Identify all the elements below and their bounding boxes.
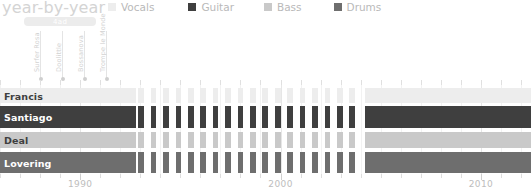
axis-tick (200, 174, 201, 178)
timeline-striped-segment (138, 106, 362, 128)
axis-tick (461, 174, 462, 178)
legend-item-vocals[interactable]: Vocals (108, 1, 154, 13)
stripe-bar (200, 106, 206, 128)
top-tick (20, 80, 21, 85)
top-tick (180, 80, 181, 85)
stripe-bar (213, 88, 219, 103)
stripe-bar (250, 152, 256, 173)
row-label-santiago: Santiago (4, 112, 52, 123)
stripe-bar (325, 132, 331, 148)
top-tick (461, 80, 462, 85)
legend-label: Drums (347, 1, 382, 13)
axis-tick (301, 174, 302, 178)
axis-tick (40, 174, 41, 178)
plot-area: FrancisSantiagoDealLovering (0, 84, 531, 174)
axis-tick (521, 174, 522, 178)
axis-tick (361, 174, 362, 178)
stripe-bar (275, 106, 281, 128)
stripe-bar (300, 152, 306, 173)
annotation-marker[interactable]: Trompe le Monde (106, 31, 107, 80)
top-tick (240, 80, 241, 85)
legend-label: Guitar (201, 1, 234, 13)
top-tick (521, 80, 522, 85)
stripe-bar (312, 88, 318, 103)
axis-tick (260, 174, 261, 178)
annotation-marker[interactable]: Doolittle (62, 31, 63, 80)
stripe-bar (325, 88, 331, 103)
stripe-bar (300, 132, 306, 148)
stripe-bar (287, 132, 293, 148)
stripe-bar (151, 152, 157, 173)
top-tick (501, 80, 502, 85)
stripe-bar (337, 152, 343, 173)
stripe-bar (213, 152, 219, 173)
legend-label: Vocals (121, 1, 154, 13)
top-tick (100, 80, 101, 85)
stripe-bar (151, 88, 157, 103)
stripe-bar (138, 132, 144, 148)
stripe-bar (349, 106, 355, 128)
axis-tick (180, 174, 181, 178)
stripe-bar (300, 88, 306, 103)
stripe-bar (176, 152, 182, 173)
top-tick (60, 80, 61, 85)
chart-legend: VocalsGuitarBassDrums (108, 0, 381, 13)
stripe-bar (312, 106, 318, 128)
annotation-label: Surfer Rosa (33, 32, 41, 72)
axis-label: 1990 (68, 179, 93, 189)
stripe-bar (262, 106, 268, 128)
axis-label: 2000 (268, 179, 293, 189)
top-tick (0, 80, 1, 85)
stripe-bar (337, 132, 343, 148)
row-label-deal: Deal (4, 135, 28, 146)
axis-tick (0, 174, 1, 178)
stripe-bar (163, 152, 169, 173)
stripe-bar (349, 152, 355, 173)
stripe-bar (188, 106, 194, 128)
legend-item-bass[interactable]: Bass (264, 1, 302, 13)
stripe-bar (287, 88, 293, 103)
year-by-year-chart: year-by-year VocalsGuitarBassDrums 4adSu… (0, 0, 531, 190)
timeline-row-lovering[interactable]: Lovering (0, 152, 531, 173)
stripe-bar (225, 152, 231, 173)
axis-tick (421, 174, 422, 178)
page-title: year-by-year (2, 0, 105, 17)
top-tick (220, 80, 221, 85)
top-tick (281, 80, 282, 85)
top-tick (120, 80, 121, 85)
timeline-row-francis[interactable]: Francis (0, 88, 531, 103)
legend-swatch (334, 3, 342, 11)
timeline-segment (365, 88, 531, 103)
stripe-bar (138, 152, 144, 173)
axis-tick (381, 174, 382, 178)
stripe-bar (250, 106, 256, 128)
legend-item-drums[interactable]: Drums (334, 1, 382, 13)
timeline-striped-segment (138, 152, 362, 173)
timeline-segment (365, 152, 531, 173)
legend-swatch (264, 3, 272, 11)
stripe-bar (238, 88, 244, 103)
annotation-label: Bossanova (77, 35, 85, 72)
annotation-marker[interactable]: Bossanova (84, 31, 85, 80)
axis-tick (341, 174, 342, 178)
timeline-row-deal[interactable]: Deal (0, 132, 531, 148)
stripe-bar (188, 132, 194, 148)
stripe-bar (213, 106, 219, 128)
top-tick (481, 80, 482, 85)
stripe-bar (312, 132, 318, 148)
stripe-bar (138, 106, 144, 128)
stripe-bar (225, 88, 231, 103)
row-label-lovering: Lovering (4, 157, 52, 168)
timeline-row-santiago[interactable]: Santiago (0, 106, 531, 128)
stripe-bar (287, 152, 293, 173)
stripe-bar (325, 106, 331, 128)
top-tick (200, 80, 201, 85)
stripe-bar (312, 152, 318, 173)
top-tick (321, 80, 322, 85)
annotation-marker[interactable]: Surfer Rosa (40, 31, 41, 80)
stripe-bar (163, 132, 169, 148)
legend-item-guitar[interactable]: Guitar (188, 1, 234, 13)
axis-tick (20, 174, 21, 178)
stripe-bar (151, 132, 157, 148)
legend-swatch (108, 3, 116, 11)
